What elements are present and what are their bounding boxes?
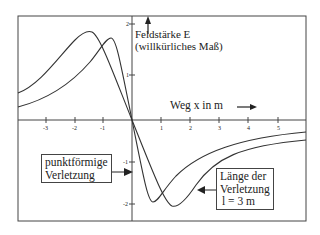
length-injury-label-box: Länge der Verletzung l = 3 m — [216, 168, 274, 210]
point-injury-label-line1: punktförmige — [45, 156, 108, 169]
x-tick-label: -2 — [72, 125, 77, 131]
x-tick-label: -3 — [43, 125, 48, 131]
x-arrow-head-icon — [250, 104, 257, 110]
x-tick-label: 2 — [189, 125, 192, 131]
y-axis-label: Feldstärke E (willkürliches Maß) — [135, 29, 223, 52]
length-injury-label-line1: Länge der — [220, 170, 270, 183]
y-tick-label: 2 — [126, 21, 129, 27]
x-tick-label: 4 — [247, 125, 250, 131]
point-injury-label-box: punktförmige Verletzung — [41, 154, 112, 183]
length-injury-label-line2: Verletzung — [220, 183, 270, 196]
y-tick-label: 1 — [126, 72, 129, 78]
point-injury-label-line2: Verletzung — [45, 169, 108, 182]
y-tick-label: -2 — [123, 201, 128, 207]
length-injury-label-line3: l = 3 m — [220, 195, 270, 208]
x-tick-label: 5 — [277, 125, 280, 131]
x-tick-label: 1 — [160, 125, 163, 131]
y-axis-label-line1: Feldstärke E — [135, 29, 223, 41]
x-tick-label: 3 — [218, 125, 221, 131]
x-tick-label: -1 — [100, 125, 105, 131]
y-tick-label: -1 — [123, 159, 128, 165]
x-axis-label: Weg x in m — [170, 99, 223, 111]
y-arrow-head-icon — [145, 16, 151, 24]
length-arrow-head-icon — [197, 186, 205, 194]
y-axis-label-line2: (willkürliches Maß) — [135, 41, 223, 53]
